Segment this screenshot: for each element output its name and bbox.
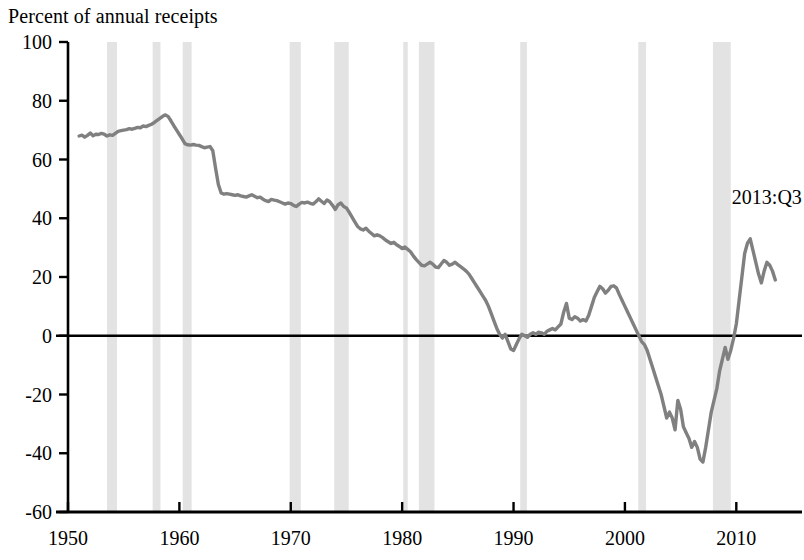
series-end-annotation: 2013:Q3: [732, 186, 802, 208]
recession-band: [153, 42, 161, 512]
recession-band: [290, 42, 301, 512]
y-axis-ticks-group: [59, 42, 68, 512]
recession-band: [638, 42, 646, 512]
chart-figure: Percent of annual receipts 100806040200-…: [0, 0, 804, 560]
y-axis-tick-label: -60: [25, 501, 52, 523]
y-axis-tick-label: -40: [25, 442, 52, 464]
x-axis-tick-label: 2010: [716, 527, 756, 549]
y-axis-tick-label: 60: [32, 149, 52, 171]
x-axis-tick-label: 1970: [271, 527, 311, 549]
y-axis-tick-label: 40: [32, 207, 52, 229]
y-axis-tick-label: 20: [32, 266, 52, 288]
recession-band: [520, 42, 527, 512]
recession-bands-group: [107, 42, 731, 512]
x-axis-tick-label: 1950: [48, 527, 88, 549]
x-axis-tick-labels-group: 1950196019701980199020002010: [48, 527, 756, 549]
y-axis-tick-label: -20: [25, 384, 52, 406]
x-axis-tick-label: 1960: [159, 527, 199, 549]
line-chart-plot: 100806040200-20-40-60 195019601970198019…: [0, 0, 804, 560]
recession-band: [334, 42, 348, 512]
x-axis-tick-label: 1980: [382, 527, 422, 549]
y-axis-tick-label: 100: [22, 31, 52, 53]
recession-band: [713, 42, 731, 512]
y-axis-tick-label: 80: [32, 90, 52, 112]
y-axis-tick-labels-group: 100806040200-20-40-60: [22, 31, 52, 523]
recession-band: [403, 42, 407, 512]
recession-band: [183, 42, 192, 512]
x-axis-tick-label: 2000: [605, 527, 645, 549]
recession-band: [107, 42, 117, 512]
recession-band: [419, 42, 435, 512]
x-axis-tick-label: 1990: [494, 527, 534, 549]
y-axis-tick-label: 0: [42, 325, 52, 347]
